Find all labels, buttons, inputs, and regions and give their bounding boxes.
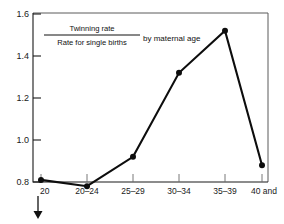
data-point	[222, 28, 228, 34]
x-tick-label-2: 25–29	[121, 186, 145, 196]
data-point	[259, 162, 265, 168]
y-tick-label-4: 1.6	[16, 9, 29, 19]
x-tick-label-4: 35–39	[213, 186, 237, 196]
x-tick-label-3: 30–34	[167, 186, 191, 196]
y-tick-label-2: 1.2	[16, 93, 29, 103]
title-denominator: Rate for single births	[57, 38, 127, 47]
data-point	[176, 70, 182, 76]
x-tick-label-5: 40 and	[251, 186, 277, 196]
chart-container: 0.8 1.0 1.2 1.4 1.6 20 20–24 25–29 30–34…	[0, 0, 284, 224]
y-tick-label-3: 1.4	[16, 51, 29, 61]
data-point	[130, 154, 136, 160]
y-tick-label-0: 0.8	[16, 177, 29, 187]
data-point	[84, 183, 90, 189]
data-point	[38, 177, 44, 183]
x-tick-label-0: 20	[40, 186, 50, 196]
title-numerator: Twinning rate	[69, 24, 114, 33]
title-suffix: by maternal age	[143, 34, 201, 43]
y-tick-label-1: 1.0	[16, 135, 29, 145]
twinning-rate-line-chart: 0.8 1.0 1.2 1.4 1.6 20 20–24 25–29 30–34…	[0, 0, 284, 224]
